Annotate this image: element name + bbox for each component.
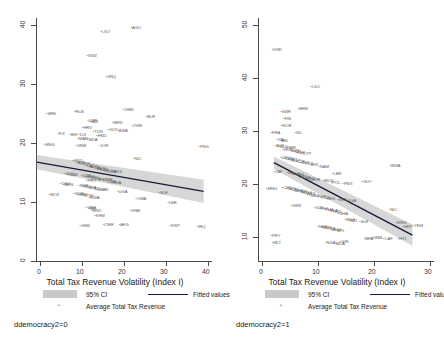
panel-ddemocracy2-0: 40 30 20 10 0 0 10 20 30 40 Total Tax Re… (0, 0, 222, 341)
data-point: SVK (309, 163, 319, 167)
y-ticklabel-left-2: 20 (19, 135, 26, 151)
x-axis-title-left: Total Tax Revenue Volatility (Index I) (20, 277, 210, 287)
data-point: FJI (58, 132, 65, 136)
data-point: PRY (271, 234, 281, 238)
data-point: LBR (167, 201, 176, 205)
data-point: HTI (398, 237, 406, 241)
x-tick-right-1 (318, 261, 319, 266)
data-point: MNG (266, 187, 277, 191)
data-point: MLI (349, 219, 357, 223)
legend-point-marker-left: • (58, 303, 60, 308)
x-ticklabel-right-1: 10 (312, 268, 319, 275)
data-point: AFG (119, 223, 129, 227)
legend-ci-label-right: 95% CI (308, 291, 329, 298)
data-point: GUY (361, 180, 371, 184)
data-point: UGA (117, 190, 127, 194)
x-axis-title-right: Total Tax Revenue Volatility (Index I) (242, 277, 432, 287)
data-point: GAB (68, 173, 78, 177)
x-tick-right-2 (374, 261, 375, 266)
x-axis-line-right (258, 261, 434, 262)
data-point: LBR (332, 172, 341, 176)
data-point: MOZ (49, 193, 60, 197)
plot-area-left: LSOAGOSWZGNQSRBRUSOMNBLRUZBBDIBRNZWEHRVG… (36, 18, 212, 261)
y-ticklabel-right-2: 30 (241, 123, 248, 139)
fitted-line-left (37, 162, 204, 191)
data-point: ZWE (132, 124, 143, 128)
x-tick-left-2 (124, 261, 125, 266)
data-point: HRV (82, 126, 92, 130)
x-ticklabel-left-0: 0 (37, 268, 41, 275)
x-tick-left-1 (82, 261, 83, 266)
data-point: LSO (100, 30, 110, 34)
data-point: VNM (130, 209, 141, 213)
data-point: IRQ (197, 225, 206, 229)
data-point: ISL (294, 131, 301, 135)
data-point: BRN (112, 121, 122, 125)
data-point: GIN (100, 188, 109, 192)
y-ticklabel-left-3: 10 (19, 194, 26, 210)
data-point: KHM (94, 214, 105, 218)
x-tick-left-3 (166, 261, 167, 266)
data-point: POL (331, 181, 341, 185)
data-point: VEN (325, 197, 335, 201)
data-point: BEN (63, 183, 73, 187)
data-point: NIC (389, 208, 397, 212)
y-ticklabel-right-3: 20 (241, 176, 248, 192)
x-ticklabel-right-2: 20 (368, 268, 375, 275)
data-point: MYS (112, 170, 122, 174)
data-point: NPL (335, 229, 344, 233)
data-point: LSO (310, 85, 320, 89)
data-point: MDA (87, 138, 98, 142)
data-point: CMR (103, 223, 114, 227)
plot-area-right: DNKLSOSWEBRBFINNORFRAISLITABELAUTNLDGBRH… (258, 18, 434, 261)
data-point: AGO (131, 26, 142, 30)
legend-point-marker-right: • (280, 303, 282, 308)
data-point: UGA (346, 199, 356, 203)
data-point: SWE (280, 110, 291, 114)
data-point: DNK (272, 48, 282, 52)
data-point: CAF (383, 237, 393, 241)
data-point: SRB (46, 112, 56, 116)
y-ticklabel-right-4: 10 (241, 229, 248, 245)
data-point: RWA (89, 196, 100, 200)
data-point: OMN (123, 108, 134, 112)
x-ticklabel-right-3: 30 (424, 268, 431, 275)
panel-caption-left: ddemocracy2=0 (14, 320, 68, 329)
x-ticklabel-left-1: 10 (76, 268, 83, 275)
data-point: MLT (272, 241, 281, 245)
data-point: SLE (359, 220, 368, 224)
data-point: JOR (99, 144, 109, 148)
data-point: GNB (79, 224, 89, 228)
legend-ci-swatch-right (265, 290, 299, 298)
y-ticklabel-right-0: 50 (241, 17, 248, 33)
legend-fit-label-right: Fitted values (415, 291, 444, 298)
data-point: GIN (340, 240, 349, 244)
data-point: KWT (170, 224, 181, 228)
data-point: RUS (74, 110, 84, 114)
y-tick-left-4 (31, 261, 36, 262)
x-ticklabel-left-2: 20 (118, 268, 125, 275)
data-point: BGR (310, 178, 320, 182)
legend-ci-swatch-left (43, 290, 77, 298)
x-ticklabel-left-3: 30 (160, 268, 167, 275)
figure-root: 40 30 20 10 0 0 10 20 30 40 Total Tax Re… (0, 0, 444, 341)
x-tick-left-4 (208, 261, 209, 266)
data-point: BIH (69, 133, 77, 137)
data-point: GNQ (105, 75, 116, 79)
data-point: SEP (402, 225, 412, 229)
legend-point-label-right: Average Total Tax Revenue (308, 303, 387, 310)
x-ticklabel-left-4: 40 (202, 268, 209, 275)
legend-ci-label-left: 95% CI (86, 291, 107, 298)
x-tick-left-0 (40, 261, 41, 266)
y-ticklabel-left-0: 40 (19, 17, 26, 33)
data-point: FRA (271, 131, 281, 135)
data-point: BWA (117, 129, 128, 133)
data-point: FIN (283, 117, 291, 121)
x-tick-right-3 (430, 261, 431, 266)
data-point: VNM (76, 144, 87, 148)
x-tick-right-0 (262, 261, 263, 266)
data-point: PNG (198, 145, 208, 149)
y-ticklabel-right-1: 40 (241, 70, 248, 86)
legend-fit-line-left (148, 294, 188, 295)
data-point: NAM (318, 165, 329, 169)
